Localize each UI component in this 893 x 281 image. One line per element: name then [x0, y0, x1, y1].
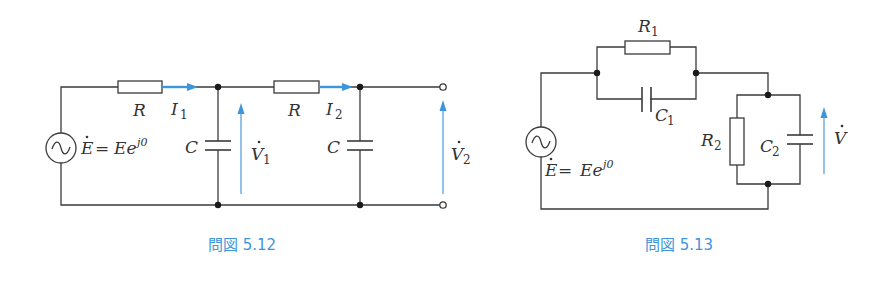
voltage-v-label: V: [834, 125, 848, 148]
svg-text:=: =: [95, 138, 109, 158]
svg-text:R: R: [637, 16, 651, 36]
voltage-v2-label: V 2: [451, 141, 471, 167]
current-i2-label: I 2: [325, 99, 343, 122]
figure-5-12: E = Ee j0 R I 1 C: [46, 81, 471, 254]
svg-text:2: 2: [714, 139, 722, 153]
circuit-figures: E = Ee j0 R I 1 C: [0, 0, 893, 281]
voltage-arrow-v: [821, 107, 828, 174]
svg-text:Ee: Ee: [113, 138, 136, 158]
node: [357, 84, 363, 90]
svg-text:Ee: Ee: [579, 160, 602, 180]
svg-text:E: E: [544, 160, 558, 180]
resistor-r1: [118, 81, 162, 93]
node: [765, 181, 771, 187]
source-label: E = Ee j0: [80, 136, 147, 158]
wires-5-13: [541, 47, 800, 209]
resistor-r2: [274, 81, 319, 93]
node: [215, 202, 221, 208]
ac-source-icon: [526, 127, 556, 157]
output-terminal-bottom: [440, 202, 446, 208]
figure-caption: 問図 5.13: [645, 236, 713, 254]
capacitor-c1: [642, 87, 651, 112]
current-arrow-i2: [319, 83, 353, 91]
capacitor-c2-label: C: [327, 137, 340, 157]
figure-caption: 問図 5.12: [208, 236, 276, 254]
svg-text:I: I: [325, 99, 333, 119]
capacitor-c1: [205, 141, 231, 150]
node: [215, 84, 221, 90]
current-i1-label: I 1: [170, 99, 188, 122]
voltage-arrow-v2: [440, 100, 447, 194]
svg-text:V: V: [834, 128, 848, 148]
resistor-r2-label: R: [287, 100, 301, 120]
svg-text:=: =: [558, 160, 572, 180]
source-label: E = Ee j0: [544, 158, 613, 180]
svg-text:2: 2: [772, 145, 780, 159]
capacitor-c2: [347, 141, 373, 150]
capacitor-c2-label: C 2: [760, 136, 780, 159]
svg-text:1: 1: [651, 25, 659, 39]
svg-text:E: E: [80, 138, 94, 158]
figure-5-13: E = Ee j0 R 1 C 1 R 2: [526, 16, 848, 254]
svg-text:I: I: [170, 99, 178, 119]
capacitor-c1-label: C 1: [655, 105, 675, 128]
resistor-r1-label: R 1: [637, 16, 659, 39]
voltage-v1-label: V 1: [251, 141, 271, 167]
svg-text:1: 1: [180, 108, 188, 122]
node: [357, 202, 363, 208]
resistor-r1-label: R: [132, 100, 146, 120]
voltage-arrow-v1: [238, 103, 245, 194]
ac-source-icon: [46, 133, 76, 163]
capacitor-c1-label: C: [185, 137, 198, 157]
svg-text:R: R: [700, 130, 714, 150]
output-terminal-top: [440, 84, 446, 90]
resistor-r1: [625, 41, 670, 54]
resistor-r2: [730, 118, 744, 165]
current-arrow-i1: [162, 83, 198, 91]
svg-text:2: 2: [463, 153, 471, 167]
node: [765, 92, 771, 98]
resistor-r2-label: R 2: [700, 130, 722, 153]
capacitor-c2: [787, 135, 813, 144]
svg-text:1: 1: [667, 114, 675, 128]
node: [693, 70, 699, 76]
node: [594, 70, 600, 76]
svg-text:2: 2: [335, 108, 343, 122]
svg-text:1: 1: [263, 153, 271, 167]
